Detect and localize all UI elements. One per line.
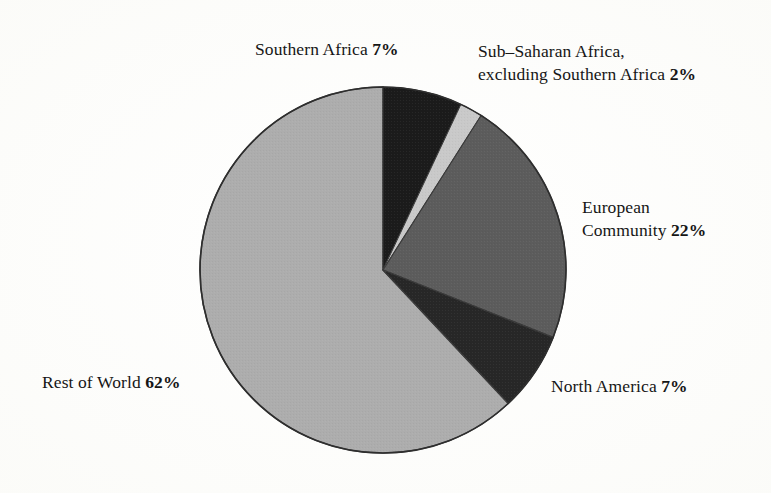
pie-chart-figure: Southern Africa 7% Sub–Saharan Africa, e… <box>0 0 771 493</box>
pie-label-european-community-value: 22% <box>671 220 706 240</box>
pie-label-rest-of-world-name: Rest of World <box>42 372 145 392</box>
pie-label-european-community-line1: European <box>582 197 650 217</box>
pie-grain-overlay <box>200 87 566 453</box>
pie-label-subsaharan-africa-name: excluding Southern Africa <box>478 64 670 84</box>
pie-label-rest-of-world: Rest of World 62% <box>42 371 181 394</box>
pie-label-european-community: European Community 22% <box>582 196 757 242</box>
pie-label-southern-africa-name: Southern Africa <box>255 39 372 59</box>
pie-label-subsaharan-africa: Sub–Saharan Africa, excluding Southern A… <box>478 40 746 86</box>
pie-label-north-america: North America 7% <box>551 375 688 398</box>
pie-label-subsaharan-africa-line1: Sub–Saharan Africa, <box>478 41 625 61</box>
pie-label-european-community-name: Community <box>582 220 671 240</box>
pie-label-southern-africa: Southern Africa 7% <box>255 38 399 61</box>
pie-label-southern-africa-value: 7% <box>372 39 398 59</box>
pie-label-subsaharan-africa-value: 2% <box>670 64 696 84</box>
pie-label-north-america-name: North America <box>551 376 661 396</box>
pie-label-north-america-value: 7% <box>661 376 687 396</box>
pie-label-rest-of-world-value: 62% <box>145 372 180 392</box>
